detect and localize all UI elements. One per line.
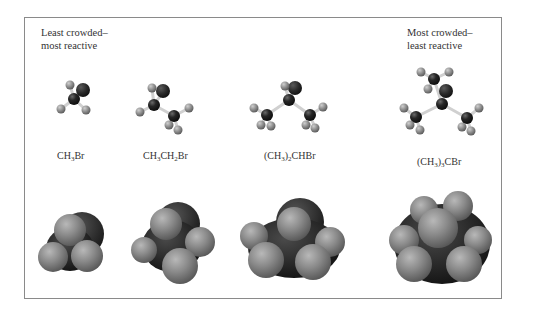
annotation-right-line2: least reactive [407,39,473,52]
formula-ch3-3cbr: (CH3)3CBr [417,156,461,169]
ball-stick-ch3br [50,72,100,122]
formula-part: CH [160,150,174,161]
annotation-left-line1: Least crowded– [41,26,108,39]
ball-stick-ch3-2chbr [245,78,335,138]
ball-stick-ch3ch2br [132,78,202,138]
formula-part: (CH [264,150,281,161]
formula-part: CH [57,150,71,161]
formula-part: Br [178,150,188,161]
formula-part: CHBr [292,150,316,161]
formula-ch3ch2br: CH3CH2Br [143,150,188,163]
space-filling-ch3ch2br [128,198,220,290]
annotation-most-crowded: Most crowded– least reactive [407,26,473,52]
space-filling-ch3-2chbr [238,194,350,290]
space-filling-ch3-3cbr [386,184,498,290]
formula-part: CBr [445,156,462,167]
space-filling-ch3br [36,206,112,282]
formula-part: (CH [417,156,434,167]
formula-part: Br [74,150,84,161]
formula-part: CH [143,150,157,161]
annotation-least-crowded: Least crowded– most reactive [41,26,108,52]
formula-ch3-2chbr: (CH3)2CHBr [264,150,315,163]
annotation-left-line2: most reactive [41,39,108,52]
annotation-right-line1: Most crowded– [407,26,473,39]
ball-stick-ch3-3cbr [398,62,488,142]
formula-ch3br: CH3Br [57,150,84,163]
